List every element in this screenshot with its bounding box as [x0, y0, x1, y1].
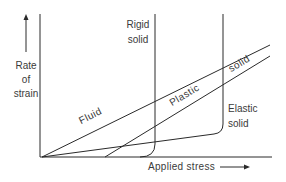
x-axis-label: Applied stress: [148, 161, 215, 173]
elastic-label-line-2: solid: [228, 118, 257, 130]
y-arrow-icon: [24, 14, 29, 52]
y-label-line-3: strain: [10, 88, 42, 100]
rigid-solid-label: Rigid solid: [123, 19, 153, 46]
x-arrow-icon: [220, 165, 250, 170]
rigid-label-line-2: solid: [123, 34, 153, 46]
y-label-line-2: of: [10, 74, 42, 86]
rigid-label-line-1: Rigid: [123, 19, 153, 31]
elastic-solid-label: Elastic solid: [228, 103, 257, 130]
y-label-line-1: Rate: [10, 60, 42, 72]
y-axis-label: Rate of strain: [10, 60, 42, 100]
elastic-label-line-1: Elastic: [228, 103, 257, 115]
